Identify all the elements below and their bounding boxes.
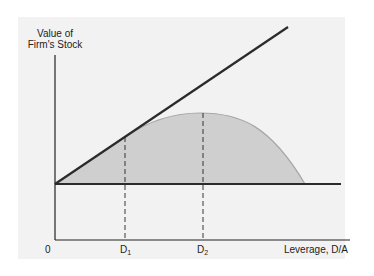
y-axis-label-line2: Firm's Stock bbox=[26, 39, 84, 50]
x-axis-label: Leverage, D/A bbox=[284, 244, 348, 255]
d1-label: D1 bbox=[120, 244, 131, 258]
d1-label-sub: 1 bbox=[127, 249, 131, 256]
d2-label: D2 bbox=[197, 244, 208, 258]
origin-label: 0 bbox=[45, 244, 51, 255]
d2-label-sub: 2 bbox=[204, 249, 208, 256]
y-axis-label-line1: Value of bbox=[26, 28, 84, 39]
y-axis-label: Value of Firm's Stock bbox=[26, 28, 84, 50]
actual-value-area bbox=[55, 113, 305, 184]
